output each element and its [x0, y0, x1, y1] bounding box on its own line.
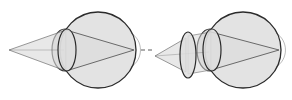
panel-corrected-eye	[155, 12, 285, 88]
eye-optics-diagram: Eye refraction diagram: uncorrected eye …	[0, 0, 292, 100]
crystalline-lens-right	[203, 29, 221, 71]
crystalline-lens-left	[58, 29, 76, 71]
corrective-lens-right	[180, 32, 196, 78]
panel-uncorrected-eye	[9, 12, 140, 88]
figure-root: Eye refraction diagram: uncorrected eye …	[0, 0, 292, 100]
